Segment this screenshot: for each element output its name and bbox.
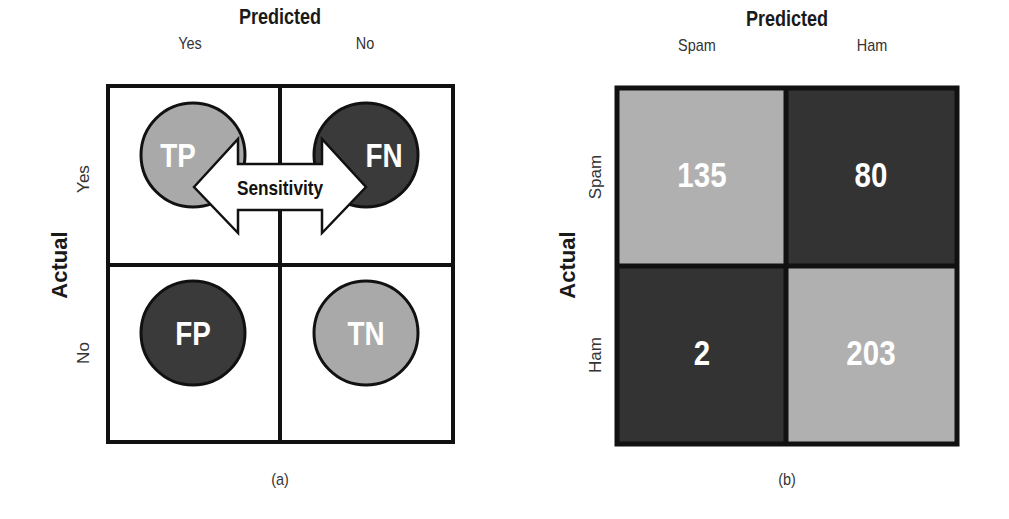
panel-b-matrix: 135 80 2 203 <box>0 0 1009 519</box>
cell-value-80: 80 <box>855 154 888 194</box>
cell-value-135: 135 <box>677 154 726 194</box>
cell-value-2: 2 <box>694 332 710 372</box>
cell-value-203: 203 <box>846 332 895 372</box>
panel-b-caption: (b) <box>753 470 821 490</box>
